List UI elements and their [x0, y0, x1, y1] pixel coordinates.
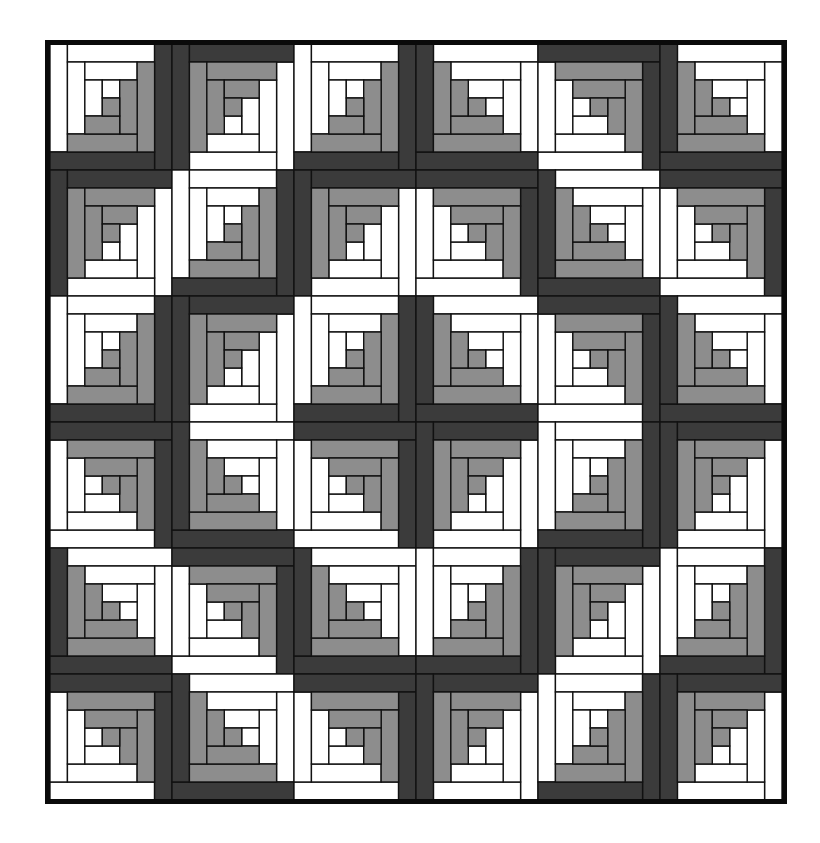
- log-piece: [695, 764, 747, 782]
- quilt-block: [416, 170, 538, 296]
- log-piece: [433, 314, 450, 386]
- log-piece: [329, 332, 346, 368]
- log-piece: [555, 566, 572, 656]
- log-piece: [294, 422, 416, 440]
- log-piece: [590, 458, 607, 476]
- log-piece: [277, 440, 294, 530]
- log-piece: [625, 80, 642, 152]
- log-piece: [660, 674, 677, 800]
- log-piece: [294, 152, 399, 170]
- log-piece: [311, 512, 381, 530]
- log-piece: [765, 314, 782, 404]
- log-piece: [329, 710, 381, 728]
- log-piece: [102, 332, 119, 350]
- log-piece: [311, 638, 398, 656]
- log-piece: [433, 638, 503, 656]
- log-piece: [399, 566, 416, 656]
- log-piece: [573, 242, 625, 260]
- log-piece: [677, 134, 764, 152]
- log-piece: [433, 566, 450, 638]
- log-piece: [329, 566, 399, 584]
- log-piece: [329, 206, 346, 260]
- log-piece: [85, 584, 102, 620]
- log-piece: [346, 476, 363, 494]
- log-piece: [277, 314, 294, 422]
- log-piece: [677, 782, 764, 800]
- log-piece: [172, 170, 189, 278]
- log-piece: [451, 692, 521, 710]
- log-piece: [294, 782, 399, 800]
- log-piece: [277, 62, 294, 170]
- log-piece: [294, 44, 311, 152]
- log-piece: [695, 332, 712, 368]
- log-piece: [381, 458, 398, 530]
- log-piece: [625, 584, 642, 656]
- log-piece: [207, 206, 224, 242]
- log-piece: [67, 512, 137, 530]
- log-piece: [67, 458, 84, 512]
- log-piece: [67, 134, 137, 152]
- log-piece: [67, 548, 172, 566]
- log-piece: [433, 548, 520, 566]
- log-piece: [399, 692, 416, 800]
- log-piece: [468, 746, 485, 764]
- log-piece: [224, 602, 241, 620]
- log-piece: [120, 332, 137, 386]
- log-piece: [67, 710, 84, 764]
- log-piece: [311, 296, 398, 314]
- log-piece: [50, 674, 172, 692]
- log-piece: [416, 296, 433, 404]
- log-piece: [416, 674, 433, 800]
- log-piece: [259, 80, 276, 152]
- log-piece: [189, 764, 276, 782]
- log-piece: [695, 368, 747, 386]
- log-piece: [538, 170, 555, 278]
- log-piece: [573, 368, 608, 386]
- log-piece: [555, 260, 642, 278]
- log-piece: [67, 44, 154, 62]
- log-piece: [224, 98, 241, 116]
- log-piece: [172, 674, 189, 782]
- log-piece: [765, 188, 782, 296]
- log-piece: [416, 548, 433, 656]
- quilt-block: [538, 548, 660, 674]
- log-piece: [399, 188, 416, 296]
- log-piece: [433, 422, 538, 440]
- log-piece: [451, 620, 486, 638]
- log-piece: [329, 116, 364, 134]
- log-piece: [207, 62, 277, 80]
- log-piece: [538, 782, 643, 800]
- log-piece: [677, 260, 747, 278]
- log-piece: [660, 170, 782, 188]
- log-piece: [155, 566, 172, 656]
- log-piece: [625, 440, 642, 530]
- log-piece: [416, 404, 538, 422]
- log-piece: [172, 530, 294, 548]
- log-piece: [573, 350, 590, 368]
- log-piece: [189, 296, 294, 314]
- log-piece: [50, 692, 67, 782]
- log-piece: [102, 98, 119, 116]
- log-piece: [224, 206, 241, 224]
- log-piece: [433, 134, 520, 152]
- log-piece: [695, 116, 747, 134]
- log-piece: [120, 80, 137, 134]
- log-piece: [747, 332, 764, 386]
- log-piece: [521, 440, 538, 548]
- log-piece: [712, 584, 729, 602]
- log-piece: [747, 710, 764, 782]
- log-piece: [555, 692, 572, 764]
- log-piece: [224, 728, 241, 746]
- log-piece: [451, 332, 468, 368]
- log-piece: [468, 476, 485, 494]
- log-piece: [590, 728, 607, 746]
- log-piece: [50, 440, 67, 530]
- log-piece: [433, 692, 450, 782]
- log-piece: [590, 224, 607, 242]
- log-piece: [730, 584, 747, 638]
- log-piece: [294, 674, 416, 692]
- quilt-block: [294, 422, 416, 548]
- log-piece: [660, 152, 782, 170]
- log-piece: [85, 710, 137, 728]
- quilt-block: [172, 674, 294, 800]
